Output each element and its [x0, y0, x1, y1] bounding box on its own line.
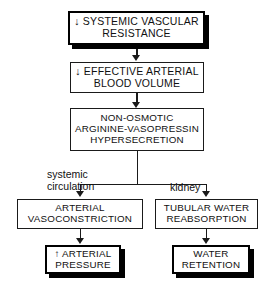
node-arterial-pressure-label: ↑ ARTERIAL PRESSURE — [47, 249, 119, 271]
connector-vasoconstriction-to-pressure-arrowhead — [76, 238, 84, 244]
connector-avp-stem — [137, 151, 138, 185]
node-tubular-water-reabsorption-label: TUBULAR WATER REABSORPTION — [156, 203, 257, 225]
node-arterial-pressure: ↑ ARTERIAL PRESSURE — [45, 245, 121, 274]
branch-label-kidney: kidney — [170, 168, 230, 193]
node-arterial-vasoconstriction: ARTERIAL VASOCONSTRICTION — [17, 199, 143, 229]
node-effective-arterial-blood-volume-label: ↓ EFFECTIVE ARTERIAL BLOOD VOLUME — [71, 66, 203, 90]
node-systemic-vascular-resistance-label: ↓ SYSTEMIC VASCULAR RESISTANCE — [70, 16, 203, 40]
connector-svr-to-eabv-arrowhead — [132, 55, 140, 61]
node-tubular-water-reabsorption: TUBULAR WATER REABSORPTION — [155, 199, 258, 229]
flowchart-diagram: ↓ SYSTEMIC VASCULAR RESISTANCE ↓ EFFECTI… — [0, 0, 273, 288]
branch-label-systemic-circulation-text: systemic circulation — [47, 168, 94, 193]
node-water-retention-label: WATER RETENTION — [174, 249, 248, 271]
node-arterial-vasoconstriction-label: ARTERIAL VASOCONSTRICTION — [18, 203, 142, 225]
node-avp-hypersecretion-label: NON-OSMOTIC ARGININE-VASOPRESSIN HYPERSE… — [71, 113, 203, 146]
connector-reabsorption-to-retention-arrowhead — [202, 238, 210, 244]
node-water-retention: WATER RETENTION — [172, 245, 250, 274]
node-effective-arterial-blood-volume: ↓ EFFECTIVE ARTERIAL BLOOD VOLUME — [70, 62, 204, 93]
node-systemic-vascular-resistance: ↓ SYSTEMIC VASCULAR RESISTANCE — [68, 11, 205, 45]
branch-label-kidney-text: kidney — [170, 181, 200, 193]
node-avp-hypersecretion: NON-OSMOTIC ARGININE-VASOPRESSIN HYPERSE… — [70, 108, 204, 151]
branch-label-systemic-circulation: systemic circulation — [47, 155, 132, 193]
